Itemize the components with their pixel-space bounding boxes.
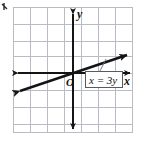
equation-label: x = 3y: [88, 74, 117, 86]
origin-label: O: [66, 76, 74, 88]
y-axis-label: y: [75, 7, 83, 21]
coordinate-plane-figure: x = 3y O y x: [0, 0, 143, 142]
x-axis-label: x: [123, 74, 130, 88]
graph-canvas: x = 3y O y x: [0, 0, 143, 142]
